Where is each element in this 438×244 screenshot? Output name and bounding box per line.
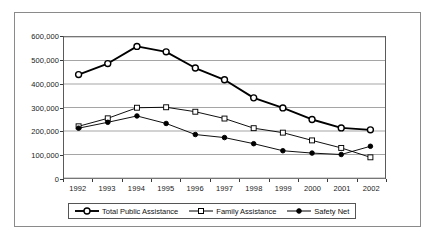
series-line bbox=[79, 107, 371, 157]
filled-circle-marker-icon bbox=[287, 206, 311, 216]
data-point-marker bbox=[135, 114, 140, 119]
data-point-marker bbox=[193, 109, 198, 114]
x-axis-tick-label: 2002 bbox=[351, 184, 391, 193]
x-axis-tick-mark bbox=[180, 179, 181, 182]
x-axis-tick-mark bbox=[386, 179, 387, 182]
data-point-marker bbox=[76, 72, 82, 78]
open-square-marker-icon bbox=[189, 206, 213, 216]
x-axis-tick-mark bbox=[151, 179, 152, 182]
data-point-marker bbox=[251, 95, 257, 101]
data-point-marker bbox=[134, 105, 139, 110]
y-axis-tick-label: 0 bbox=[13, 175, 59, 184]
data-point-marker bbox=[199, 209, 204, 214]
data-point-marker bbox=[164, 105, 169, 110]
data-point-marker bbox=[192, 65, 198, 71]
x-axis-tick-mark bbox=[63, 179, 64, 182]
legend-label: Total Public Assistance bbox=[102, 207, 178, 216]
y-axis-tick-label: 200,000 bbox=[13, 127, 59, 136]
data-point-marker bbox=[338, 125, 344, 131]
data-point-marker bbox=[222, 135, 227, 140]
data-point-marker bbox=[339, 152, 344, 157]
data-point-marker bbox=[134, 43, 140, 49]
y-axis-tick-label: 600,000 bbox=[13, 32, 59, 41]
open-circle-marker-icon bbox=[75, 206, 99, 216]
chart-legend: Total Public AssistanceFamily Assistance… bbox=[68, 203, 356, 219]
data-point-marker bbox=[368, 144, 373, 149]
data-point-marker bbox=[251, 141, 256, 146]
x-axis-tick-mark bbox=[210, 179, 211, 182]
legend-label: Family Assistance bbox=[216, 207, 276, 216]
x-axis-tick-mark bbox=[327, 179, 328, 182]
data-point-marker bbox=[297, 209, 302, 214]
data-point-marker bbox=[222, 116, 227, 121]
data-point-marker bbox=[368, 155, 373, 160]
legend-entry: Total Public Assistance bbox=[75, 206, 178, 216]
data-point-marker bbox=[193, 132, 198, 137]
y-axis-tick-label: 500,000 bbox=[13, 55, 59, 64]
data-point-marker bbox=[310, 138, 315, 143]
x-axis-tick-mark bbox=[92, 179, 93, 182]
data-point-marker bbox=[251, 126, 256, 131]
data-point-marker bbox=[280, 105, 286, 111]
x-axis-tick-mark bbox=[122, 179, 123, 182]
data-series-layer bbox=[64, 37, 385, 178]
data-point-marker bbox=[84, 208, 90, 214]
y-axis-tick-label: 400,000 bbox=[13, 79, 59, 88]
data-point-marker bbox=[164, 121, 169, 126]
data-point-marker bbox=[310, 151, 315, 156]
data-point-marker bbox=[222, 77, 228, 83]
y-axis-tick-label: 300,000 bbox=[13, 103, 59, 112]
plot-area bbox=[63, 36, 386, 179]
x-axis-tick-mark bbox=[298, 179, 299, 182]
data-point-marker bbox=[105, 61, 111, 67]
chart-figure: 600,000500,000400,000300,000200,000100,0… bbox=[0, 0, 438, 244]
data-point-marker bbox=[163, 49, 169, 55]
x-axis-tick-mark bbox=[357, 179, 358, 182]
data-point-marker bbox=[367, 127, 373, 133]
data-point-marker bbox=[281, 148, 286, 153]
data-point-marker bbox=[76, 126, 81, 131]
legend-entry: Safety Net bbox=[287, 206, 349, 216]
y-axis-tick-label: 100,000 bbox=[13, 151, 59, 160]
x-axis-tick-mark bbox=[239, 179, 240, 182]
data-point-marker bbox=[339, 145, 344, 150]
legend-entry: Family Assistance bbox=[189, 206, 276, 216]
data-point-marker bbox=[309, 117, 315, 123]
x-axis-tick-mark bbox=[269, 179, 270, 182]
legend-label: Safety Net bbox=[314, 207, 349, 216]
data-point-marker bbox=[105, 120, 110, 125]
data-point-marker bbox=[280, 130, 285, 135]
